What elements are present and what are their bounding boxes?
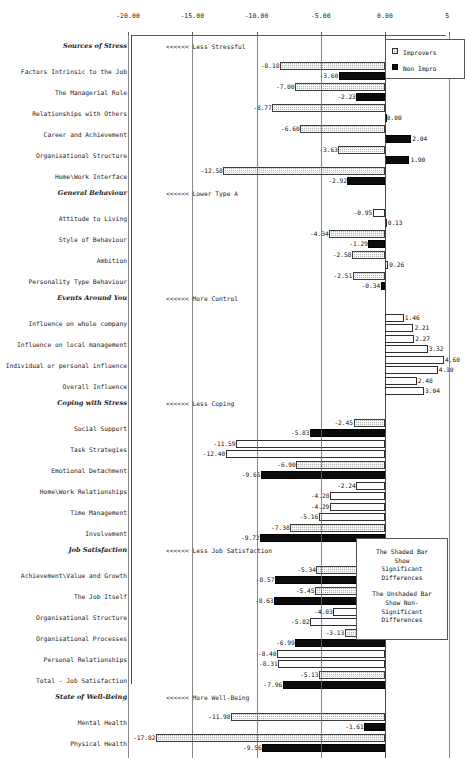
bar-non_improvers-2-3	[385, 387, 424, 395]
value-label-non_improvers-0-2: 0.00	[386, 115, 402, 121]
value-label-non_improvers-3-2: -9.65	[242, 472, 261, 478]
row-label-3-3: Home\Work Relationships	[0, 488, 130, 495]
value-label-improvers-3-1: -11.59	[213, 441, 236, 447]
note-unshaded-line-3: Differences	[356, 616, 448, 624]
value-label-non_improvers-0-5: -2.92	[328, 178, 347, 184]
row-label-1-1: Style of Behaviour	[0, 236, 130, 243]
row-label-2-2: Individual or personal influence	[0, 362, 130, 369]
value-label-non_improvers-4-2: -5.82	[291, 619, 310, 625]
bar-improvers-5-0	[231, 713, 385, 721]
value-label-non_improvers-4-0: -8.57	[256, 577, 275, 583]
bar-improvers-0-0	[280, 62, 385, 70]
bar-improvers-3-2	[296, 461, 385, 469]
row-label-0-4: Organisational Structure	[0, 152, 130, 159]
bar-improvers-5-1	[156, 734, 385, 742]
value-label-improvers-1-0: -0.95	[354, 210, 373, 216]
bar-non_improvers-5-1	[262, 744, 385, 752]
value-label-improvers-2-1: 2.27	[414, 336, 430, 342]
value-label-non_improvers-2-2: 4.10	[438, 367, 454, 373]
row-label-4-2: Organisational Structure	[0, 614, 130, 621]
bar-improvers-3-5	[290, 524, 385, 532]
bar-non_improvers-3-1	[226, 450, 385, 458]
note-shaded-line-2: Significant	[356, 565, 448, 573]
bar-improvers-2-2	[385, 356, 444, 364]
gridline-1	[192, 35, 193, 758]
row-label-0-3: Career and Achievement	[0, 131, 130, 138]
bar-non_improvers-0-4	[385, 156, 409, 164]
bar-non_improvers-0-3	[385, 135, 411, 143]
row-label-5-1: Physical Health	[0, 740, 130, 747]
bar-improvers-0-1	[295, 83, 385, 91]
row-label-2-0: Influence on whole company	[0, 320, 130, 327]
row-label-2-3: Overall Influence	[0, 383, 130, 390]
bar-improvers-3-1	[236, 440, 385, 448]
value-label-non_improvers-0-4: 1.90	[409, 157, 425, 163]
bar-improvers-3-4	[330, 503, 385, 511]
value-label-non_improvers-1-1: -1.29	[349, 241, 368, 247]
value-label-non_improvers-4-5: -7.96	[264, 682, 283, 688]
axis-tick-label-1: -15.00	[180, 12, 204, 20]
bar-non_improvers-4-5	[283, 681, 385, 689]
bar-non_improvers-5-0	[364, 723, 385, 731]
bar-improvers-3-3	[356, 482, 385, 490]
note-unshaded-line-0: The Unshaded Bar	[356, 590, 448, 598]
value-label-improvers-4-2: -4.03	[314, 609, 333, 615]
row-label-5-0: Mental Health	[0, 719, 130, 726]
row-label-3-1: Task Strategies	[0, 446, 130, 453]
axis-tick-label-4: 0.00	[377, 12, 393, 20]
bar-non_improvers-3-4	[319, 513, 385, 521]
value-label-non_improvers-1-2: 0.26	[388, 262, 404, 268]
bar-improvers-2-1	[385, 335, 414, 343]
value-label-improvers-2-3: 2.48	[417, 378, 433, 384]
group-annotation-2: <<<<<< More Control	[166, 295, 238, 302]
value-label-non_improvers-3-0: -5.83	[291, 430, 310, 436]
bar-non_improvers-2-0	[385, 324, 413, 332]
value-label-non_improvers-1-0: 0.13	[387, 220, 403, 226]
row-label-0-0: Factors Intrinsic to the Job	[0, 68, 130, 75]
gridline-0	[128, 35, 129, 758]
group-label-2: Events Around You	[0, 295, 130, 302]
zero-line	[385, 35, 386, 758]
value-label-improvers-0-4: -3.63	[319, 147, 338, 153]
value-label-improvers-4-1: -5.45	[296, 588, 315, 594]
row-label-4-3: Organisational Processes	[0, 635, 130, 642]
value-label-improvers-4-3: -3.13	[326, 630, 345, 636]
group-annotation-5: <<<<<< More Well-Being	[166, 694, 249, 701]
value-label-improvers-4-0: -5.34	[297, 567, 316, 573]
legend-swatch-non_improvers	[392, 64, 398, 70]
bar-improvers-2-0	[385, 314, 404, 322]
bar-improvers-1-2	[352, 251, 385, 259]
group-annotation-0: <<<<<< Less Stressful	[166, 43, 246, 50]
value-label-improvers-2-2: 4.60	[444, 357, 460, 363]
bar-non_improvers-2-2	[385, 366, 438, 374]
value-label-improvers-0-0: -8.18	[261, 63, 280, 69]
category-axis-rule	[131, 35, 132, 684]
value-label-improvers-1-2: -2.58	[333, 252, 352, 258]
bar-improvers-1-3	[353, 272, 385, 280]
bar-non_improvers-0-0	[339, 72, 385, 80]
gridline-5	[449, 35, 450, 758]
row-label-4-0: Achievement\Value and Growth	[0, 572, 130, 579]
bar-non_improvers-2-1	[385, 345, 428, 353]
gridline-3	[321, 35, 322, 758]
value-label-improvers-3-2: -6.90	[277, 462, 296, 468]
value-label-improvers-2-0: 1.46	[404, 315, 420, 321]
bar-non_improvers-1-1	[368, 240, 385, 248]
legend-box	[385, 39, 465, 79]
row-label-3-4: Time Management	[0, 509, 130, 516]
bar-improvers-0-2	[272, 104, 385, 112]
row-label-2-1: Influence on local management	[0, 341, 130, 348]
value-label-non_improvers-2-0: 2.21	[413, 325, 429, 331]
bar-improvers-4-4	[277, 650, 385, 658]
bar-improvers-0-4	[338, 146, 385, 154]
note-shaded-line-3: Differences	[356, 574, 448, 582]
row-label-3-0: Social Support	[0, 425, 130, 432]
note-shaded-line-1: Show	[356, 557, 448, 565]
value-label-non_improvers-4-4: -8.31	[259, 661, 278, 667]
group-label-1: General Behaviour	[0, 190, 130, 197]
value-label-improvers-3-3: -2.24	[337, 483, 356, 489]
value-label-non_improvers-0-1: -2.23	[337, 94, 356, 100]
value-label-improvers-0-3: -6.60	[281, 126, 300, 132]
value-label-improvers-0-1: -7.00	[276, 84, 295, 90]
